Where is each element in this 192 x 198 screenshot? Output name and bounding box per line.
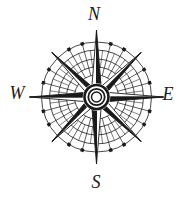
label-east: E bbox=[162, 84, 174, 104]
label-south: S bbox=[92, 172, 101, 192]
compass-rose-svg: N E S W bbox=[0, 0, 192, 198]
label-west: W bbox=[10, 83, 27, 103]
compass-hub-rings bbox=[83, 83, 111, 111]
label-north: N bbox=[87, 4, 101, 24]
compass-rose-illustration: N E S W bbox=[0, 0, 192, 198]
